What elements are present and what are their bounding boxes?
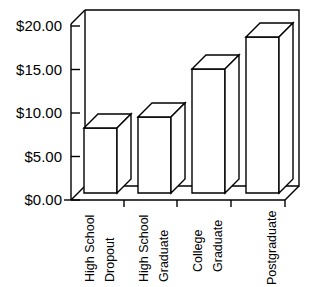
bar-4-side-face: [279, 23, 293, 193]
bar-1-side-face: [117, 114, 131, 193]
category-label-3-line-1: College: [191, 230, 205, 272]
bar-postgraduate[interactable]: [246, 23, 293, 193]
y-axis-label-0: $0.00: [24, 191, 62, 208]
category-label-2-line-1: High School: [137, 215, 151, 282]
x-axis-ticks: [124, 200, 285, 207]
y-axis-top-depth-edge: [71, 10, 85, 24]
y-axis-label-5: $5.00: [24, 148, 62, 165]
y-axis-ticks: [64, 26, 80, 200]
bar-chart: $20.00 $15.00 $10.00 $5.00 $0.00: [0, 0, 312, 287]
bar-3-side-face: [225, 55, 239, 193]
bar-2-side-face: [171, 103, 185, 193]
category-label-4-line-1: Postgraduate: [265, 211, 279, 285]
y-axis-label-10: $10.00: [16, 104, 62, 121]
floor-right-depth-edge: [285, 186, 299, 200]
bar-1-front-face: [84, 128, 117, 193]
category-label-1-line-2: Dropout: [103, 237, 117, 282]
x-axis-category-labels: High School Dropout High School Graduate…: [83, 211, 279, 285]
bar-college-graduate[interactable]: [192, 55, 239, 193]
category-label-3-line-2: Graduate: [211, 220, 225, 272]
bar-2-front-face: [138, 117, 171, 193]
bar-high-school-dropout[interactable]: [84, 114, 131, 193]
chart-canvas: $20.00 $15.00 $10.00 $5.00 $0.00: [0, 0, 312, 287]
bar-high-school-graduate[interactable]: [138, 103, 185, 193]
bar-4-front-face: [246, 37, 279, 193]
floor-left-depth-edge: [71, 186, 85, 200]
y-axis-label-20: $20.00: [16, 17, 62, 34]
y-axis-tick-labels: $20.00 $15.00 $10.00 $5.00 $0.00: [16, 17, 62, 208]
y-axis-label-15: $15.00: [16, 61, 62, 78]
bar-3-front-face: [192, 69, 225, 193]
category-label-2-line-2: Graduate: [157, 230, 171, 282]
category-label-1-line-1: High School: [83, 215, 97, 282]
